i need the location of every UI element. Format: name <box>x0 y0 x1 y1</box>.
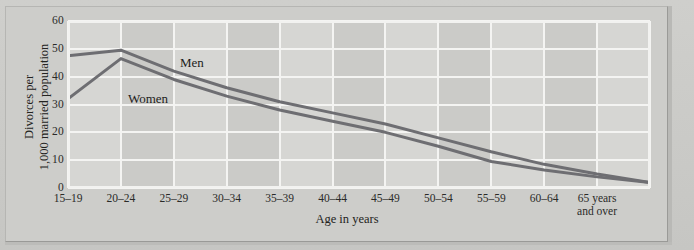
series-line-women <box>68 59 650 183</box>
frame-bottom-shadow <box>5 242 672 245</box>
y-axis-tick-label: 10 <box>24 154 64 165</box>
series-line-men <box>68 50 650 182</box>
x-axis-title: Age in years <box>0 212 694 227</box>
x-tick-line1: 30–34 <box>212 192 241 204</box>
series-label-women: Women <box>128 91 168 107</box>
y-axis-tick-label: 60 <box>24 15 64 26</box>
x-tick-line1: 45–49 <box>371 192 400 204</box>
x-tick-line1: 40–44 <box>318 192 347 204</box>
series-label-men: Men <box>180 55 204 71</box>
x-tick-line1: 20–24 <box>107 192 136 204</box>
frame-right-shadow <box>668 6 672 242</box>
x-tick-line1: 55–59 <box>477 192 506 204</box>
x-tick-line1: 65 years <box>578 192 617 204</box>
y-axis-tick-label: 40 <box>24 71 64 82</box>
x-tick-line1: 60–64 <box>530 192 559 204</box>
y-axis-tick-label: 20 <box>24 126 64 137</box>
x-tick-line1: 25–29 <box>159 192 188 204</box>
chart-canvas: Divorces per 1,000 married population 01… <box>0 0 694 250</box>
y-axis-tick-label: 50 <box>24 43 64 54</box>
x-tick-line1: 50–54 <box>424 192 453 204</box>
x-tick-line1: 15–19 <box>54 192 83 204</box>
x-tick-line1: 35–39 <box>265 192 294 204</box>
y-axis-tick-label: 30 <box>24 99 64 110</box>
